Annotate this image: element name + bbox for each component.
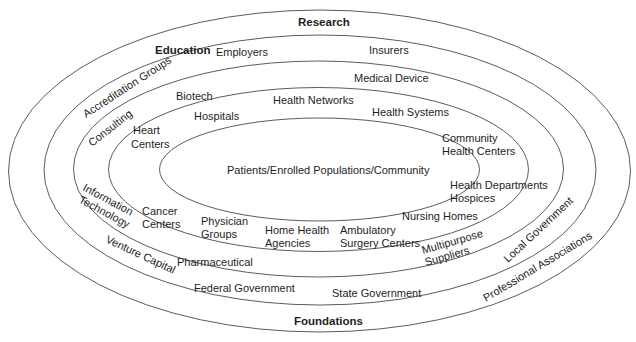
label-hospitals: Hospitals [194,110,240,122]
label-health-systems: Health Systems [372,106,450,118]
label-home-health: Home Health [265,224,329,236]
label-agencies: Agencies [265,237,311,249]
label-groups: Groups [201,228,238,240]
label-professional-associations: Professional Associations [481,229,595,304]
label-ambulatory: Ambulatory [340,224,396,236]
label-heart: Heart [133,124,160,136]
label-medical-device: Medical Device [354,72,429,84]
label-federal-government: Federal Government [194,282,295,294]
label-health-departments: Health Departments [450,179,548,191]
label-cancer: Cancer [142,205,178,217]
label-insurers: Insurers [369,44,409,56]
label-physician: Physician [201,215,248,227]
stakeholder-ellipse-diagram: Research Education Foundations Professio… [0,0,636,342]
label-state-government: State Government [332,287,421,299]
label-hospices: Hospices [450,192,496,204]
label-cancer-centers: Centers [142,218,181,230]
label-nursing-homes: Nursing Homes [402,210,478,222]
label-pharmaceutical: Pharmaceutical [177,256,253,268]
label-surgery-centers: Surgery Centers [340,237,421,249]
label-education: Education [155,44,211,56]
label-health-centers: Health Centers [442,145,516,157]
label-heart-centers: Centers [131,138,170,150]
label-foundations: Foundations [294,315,363,327]
label-health-networks: Health Networks [273,94,354,106]
label-employers: Employers [216,46,268,58]
label-community: Community [442,132,498,144]
label-patients-center: Patients/Enrolled Populations/Community [227,164,430,176]
label-biotech: Biotech [176,90,213,102]
label-venture-capital: Venture Capital [104,233,177,276]
label-research: Research [298,16,350,28]
